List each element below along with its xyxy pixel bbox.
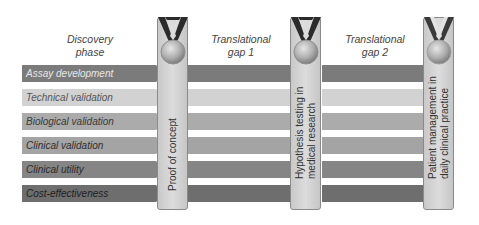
row-arrow-gap-1 [188, 89, 300, 106]
row-arrow-gap-2 [322, 65, 433, 82]
gap1-line1: Translational [196, 33, 286, 46]
row-label: Cost-effectiveness [26, 187, 108, 200]
milestone-line2: daily clinical practice [439, 76, 451, 179]
row-arrow-gap-1 [188, 65, 300, 82]
row-arrow-gap-2 [322, 113, 433, 130]
gap2-line1: Translational [330, 33, 420, 46]
milestone-label: Patient management in daily clinical pra… [427, 76, 451, 179]
row-arrow-discovery: Cost-effectiveness [22, 185, 165, 202]
row-arrow-gap-1 [188, 137, 300, 154]
discovery-phase-label: Discovery phase [45, 33, 135, 59]
discovery-phase-line2: phase [45, 46, 135, 59]
milestone-label: Proof of concept [167, 118, 179, 191]
row-arrow-gap-1 [188, 185, 300, 202]
row-arrow-gap-2 [322, 137, 433, 154]
gap2-line2: gap 2 [330, 46, 420, 59]
row-label: Clinical utility [26, 163, 84, 176]
medal-icon [421, 14, 457, 70]
translational-gap-1-label: Translational gap 1 [196, 33, 286, 59]
gap1-line2: gap 1 [196, 46, 286, 59]
medal-icon [155, 14, 191, 70]
row-arrow-gap-1 [188, 161, 300, 178]
row-arrow-discovery: Technical validation [22, 89, 165, 106]
row-label: Assay development [26, 67, 113, 80]
row-arrow-discovery: Assay development [22, 65, 165, 82]
row-label: Biological validation [26, 115, 114, 128]
milestone-line1: Proof of concept [167, 118, 179, 191]
medal-icon [288, 14, 324, 70]
row-label: Technical validation [26, 91, 113, 104]
row-arrow-gap-1 [188, 113, 300, 130]
row-arrow-discovery: Biological validation [22, 113, 165, 130]
row-arrow-gap-2 [322, 89, 433, 106]
row-arrow-gap-2 [322, 161, 433, 178]
milestone-line1: Patient management in [427, 76, 439, 179]
milestone-line2: medical research [306, 87, 318, 179]
discovery-phase-line1: Discovery [45, 33, 135, 46]
milestone-label: Hypothesis testing in medical research [294, 87, 318, 179]
row-arrow-discovery: Clinical utility [22, 161, 165, 178]
milestone-line1: Hypothesis testing in [294, 87, 306, 179]
row-arrow-discovery: Clinical validation [22, 137, 165, 154]
row-label: Clinical validation [26, 139, 103, 152]
row-arrow-gap-2 [322, 185, 433, 202]
translational-gap-2-label: Translational gap 2 [330, 33, 420, 59]
